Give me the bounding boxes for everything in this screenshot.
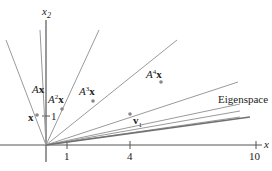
x1-axis-label: x	[263, 138, 269, 150]
eigenvector-iteration-diagram: x2 x 1 4 10 1 x Ax A2x A3x A4x v1 Eigens…	[0, 0, 272, 171]
label-A2x: A2x	[47, 93, 64, 105]
eigenspace-label: Eigenspace	[218, 93, 268, 105]
line-A4x	[46, 82, 238, 145]
point-A2x	[60, 107, 64, 111]
line-A6x	[46, 111, 240, 145]
label-A4x: A4x	[145, 68, 162, 80]
point-x	[35, 113, 39, 117]
point-A4x	[159, 80, 163, 84]
label-Ax: Ax	[31, 83, 45, 95]
point-A3x	[91, 99, 95, 103]
line-A5x	[46, 104, 240, 145]
eigenspace-line	[46, 117, 250, 145]
x2-axis-label: x2	[41, 5, 51, 20]
x-tick-label-10: 10	[249, 150, 261, 162]
label-A3x: A3x	[78, 85, 95, 97]
x-tick-label-1: 1	[64, 150, 70, 162]
x-tick-label-4: 4	[127, 150, 133, 162]
y-tick-label-1: 1	[51, 110, 57, 122]
label-x: x	[28, 111, 34, 123]
point-v1	[128, 112, 132, 116]
